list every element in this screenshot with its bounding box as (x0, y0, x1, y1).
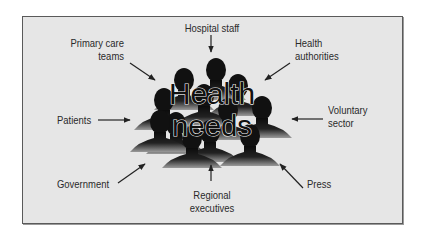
label-line: executives (184, 202, 239, 215)
label-line: Hospital staff (185, 22, 240, 34)
label-line: sector (328, 117, 367, 130)
label-line: Voluntary (328, 104, 367, 117)
label-patients: Patients (57, 114, 91, 127)
arrow-health-authorities (265, 63, 290, 80)
label-line: Government (57, 178, 109, 190)
label-line: teams (55, 50, 124, 63)
center-title-line1: Health (169, 77, 255, 110)
label-voluntary-sector: Voluntary sector (328, 104, 367, 130)
label-press: Press (307, 178, 331, 191)
label-health-authorities: Health authorities (295, 37, 339, 63)
label-primary-care-teams: Primary care teams (55, 37, 124, 63)
label-government: Government (57, 178, 109, 191)
arrow-press (280, 164, 303, 188)
arrow-primary-care-teams (130, 63, 155, 80)
arrow-government (118, 164, 145, 183)
label-line: Press (307, 178, 331, 190)
label-hospital-staff: Hospital staff (176, 22, 248, 35)
label-line: Regional (184, 189, 239, 202)
label-line: Health (295, 37, 339, 50)
label-line: Primary care (55, 37, 124, 50)
label-line: Patients (57, 114, 91, 126)
label-line: authorities (295, 50, 339, 63)
label-regional-executives: Regional executives (184, 189, 239, 215)
center-title-line2: needs (172, 109, 252, 142)
